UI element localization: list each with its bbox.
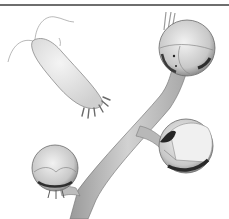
- illustration: [0, 0, 229, 219]
- middle-right-bud: [159, 119, 213, 173]
- top-right-bud: [159, 12, 215, 76]
- top-rule: [0, 4, 229, 6]
- larva: [32, 39, 110, 119]
